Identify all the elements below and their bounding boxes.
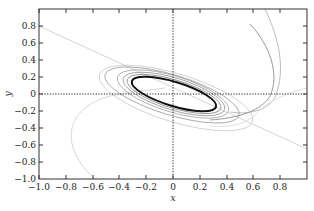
- svg-text:0.4: 0.4: [220, 182, 235, 192]
- svg-text:−0.2: −0.2: [14, 106, 36, 116]
- svg-text:0.8: 0.8: [273, 182, 288, 192]
- y-tick-labels: 0.8 0.6 0.4 0.2 0 −0.2 −0.4 −0.6 −0.8 −1…: [14, 21, 36, 184]
- svg-text:0: 0: [30, 89, 36, 99]
- svg-text:−1.0: −1.0: [14, 174, 36, 184]
- svg-text:0.6: 0.6: [246, 182, 261, 192]
- left-arc: [71, 88, 165, 179]
- svg-text:0.2: 0.2: [193, 182, 207, 192]
- svg-text:−0.8: −0.8: [55, 182, 77, 192]
- svg-text:0: 0: [170, 182, 176, 192]
- outer-trajectory: [99, 55, 245, 134]
- phase-portrait-chart: −1.0 −0.8 −0.6 −0.4 −0.2 0 0.2 0.4 0.6 0…: [0, 0, 314, 211]
- outer-trajectory-2: [92, 52, 259, 145]
- svg-text:−0.4: −0.4: [14, 123, 36, 133]
- svg-text:−0.6: −0.6: [82, 182, 104, 192]
- svg-text:−0.6: −0.6: [14, 140, 36, 150]
- right-arc-outer: [230, 9, 280, 113]
- svg-text:−0.2: −0.2: [135, 182, 157, 192]
- svg-text:−0.4: −0.4: [108, 182, 130, 192]
- x-axis-label: x: [170, 193, 175, 203]
- y-axis-label: y: [3, 91, 13, 98]
- svg-text:0.2: 0.2: [22, 72, 36, 82]
- svg-text:0.8: 0.8: [22, 21, 37, 31]
- plot-area: [39, 9, 307, 179]
- svg-text:0.6: 0.6: [22, 38, 37, 48]
- x-tick-labels: −1.0 −0.8 −0.6 −0.4 −0.2 0 0.2 0.4 0.6 0…: [28, 182, 287, 192]
- svg-text:−0.8: −0.8: [14, 157, 36, 167]
- svg-text:0.4: 0.4: [22, 55, 37, 65]
